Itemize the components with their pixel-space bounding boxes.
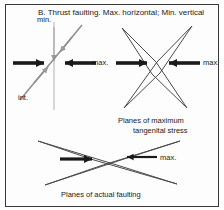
figure-container: B. Thrust faulting. Max. horizontal; Min… bbox=[0, 0, 224, 210]
caption-tangential-line1: Planes of maximum bbox=[118, 116, 184, 125]
figure-title: B. Thrust faulting. Max. horizontal; Min… bbox=[38, 8, 204, 17]
label-max-faulting: max. bbox=[160, 153, 176, 162]
caption-tangential-line2: tangenital stress bbox=[133, 126, 188, 135]
label-max-tangential: max. bbox=[203, 58, 219, 67]
label-max-stress-axes: max. bbox=[92, 58, 108, 67]
int-axis-arrow-lower bbox=[34, 67, 48, 83]
panel-actual-faulting bbox=[38, 141, 180, 185]
panel-tangential-planes bbox=[122, 26, 192, 108]
int-axis-arrow-upper bbox=[60, 37, 72, 52]
label-int: int. bbox=[18, 93, 28, 102]
tangential-plane-ascending bbox=[124, 26, 192, 108]
label-min: min. bbox=[37, 15, 51, 24]
figure-graphics bbox=[0, 0, 224, 210]
caption-actual-faulting: Planes of actual faulting bbox=[61, 190, 141, 199]
tangential-plane-descending bbox=[122, 28, 187, 108]
faulting-plane-descending bbox=[38, 141, 177, 184]
panel-faulting-arrows bbox=[60, 157, 157, 159]
